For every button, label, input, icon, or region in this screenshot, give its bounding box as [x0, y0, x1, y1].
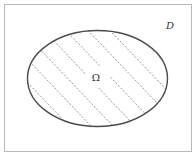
- domain-diagram: Ω D: [0, 0, 196, 162]
- domain-label: D: [165, 20, 174, 31]
- region-label: Ω: [92, 72, 100, 83]
